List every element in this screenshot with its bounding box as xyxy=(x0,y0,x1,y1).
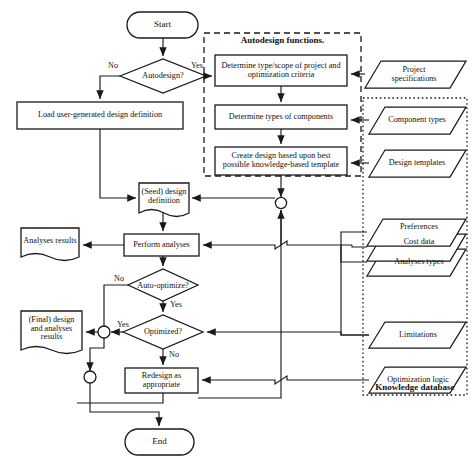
flowchart-canvas: Start Autodesign? Load user-generated de… xyxy=(0,0,473,474)
limitations-shape xyxy=(369,322,466,348)
junction-circle-bottom xyxy=(84,371,96,383)
perform-analyses-shape xyxy=(124,234,199,256)
determine-type-shape xyxy=(215,55,347,86)
project-specs-shape xyxy=(365,61,466,88)
seed-def-shape xyxy=(139,183,189,217)
junction-circle-top xyxy=(275,197,286,208)
edge-loaddef-seeddef xyxy=(100,129,136,198)
design-templates-shape xyxy=(369,150,466,177)
load-def-shape xyxy=(17,102,183,129)
edge-prefs-bus xyxy=(341,232,367,245)
flowchart-vector-layer xyxy=(0,0,473,474)
auto-optimize-shape xyxy=(128,269,198,301)
start-shape xyxy=(127,12,198,38)
final-results-shape xyxy=(21,311,82,354)
edge-limitations-optimized xyxy=(207,332,369,335)
edge-autodesign-no xyxy=(100,76,120,99)
junction-circle-mid xyxy=(98,326,110,338)
end-shape xyxy=(125,429,194,455)
autodesign-shape xyxy=(120,59,206,93)
edge-limitations-bus xyxy=(341,245,369,335)
create-design-shape xyxy=(215,147,347,175)
component-types-shape xyxy=(369,107,466,134)
edge-bus-perform xyxy=(203,241,352,249)
edge-circle-down xyxy=(90,338,104,371)
edge-right-feedback xyxy=(198,210,281,398)
optimization-logic-shape xyxy=(369,367,466,393)
edge-autoopt-no xyxy=(104,285,128,326)
preferences-shape xyxy=(367,219,466,246)
edge-cost-bus xyxy=(352,245,367,247)
edge-optlogic-redesign xyxy=(202,376,369,384)
determine-comp-shape xyxy=(215,105,347,129)
optimized-shape xyxy=(123,315,203,349)
analyses-results-shape xyxy=(21,228,79,261)
redesign-shape xyxy=(125,368,198,393)
